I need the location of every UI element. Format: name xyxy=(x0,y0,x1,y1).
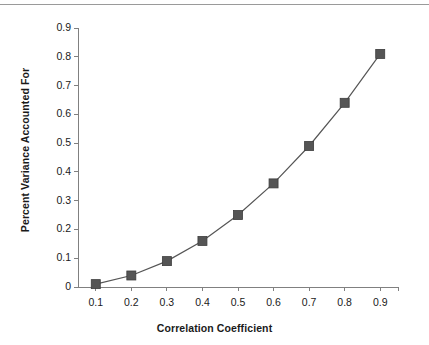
axes-lines xyxy=(78,28,398,287)
chart-plot-area xyxy=(0,0,429,345)
data-point-marker xyxy=(269,179,278,188)
data-point-marker xyxy=(305,141,314,150)
data-point-marker xyxy=(340,98,349,107)
data-point-marker xyxy=(162,257,171,266)
data-point-marker xyxy=(91,280,100,289)
data-series-line xyxy=(96,54,380,284)
data-point-marker xyxy=(376,49,385,58)
data-point-marker xyxy=(234,211,243,220)
data-point-markers xyxy=(91,49,384,288)
chart-figure: Percent Variance Accounted For Correlati… xyxy=(0,0,429,345)
axis-tick-marks xyxy=(74,28,398,291)
data-point-marker xyxy=(127,271,136,280)
data-point-marker xyxy=(198,236,207,245)
